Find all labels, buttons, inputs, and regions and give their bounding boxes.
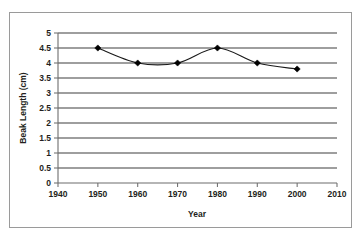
y-tick-label: 0.5 (39, 163, 51, 173)
y-axis-tick-labels: 00.511.522.533.544.55 (39, 28, 51, 188)
y-tick-label: 3 (46, 88, 51, 98)
x-tick-label: 1980 (208, 189, 227, 199)
x-tick-label: 2000 (288, 189, 307, 199)
y-tick-label: 2 (46, 118, 51, 128)
data-point-marker (174, 60, 180, 66)
data-point-marker (135, 60, 141, 66)
data-line-beak-length (98, 48, 297, 69)
y-tick-label: 4.5 (39, 43, 51, 53)
x-tick-label: 1940 (49, 189, 68, 199)
y-tick-label: 2.5 (39, 103, 51, 113)
y-axis-ticks (54, 33, 58, 183)
gridlines (58, 33, 337, 168)
y-tick-label: 1.5 (39, 133, 51, 143)
x-tick-label: 1970 (168, 189, 187, 199)
data-point-marker (294, 66, 300, 72)
y-tick-label: 4 (46, 58, 51, 68)
y-axis-title: Beak Length (cm) (18, 72, 28, 143)
y-tick-label: 3.5 (39, 73, 51, 83)
data-point-marker (254, 60, 260, 66)
x-axis-title: Year (188, 209, 207, 219)
x-tick-label: 1960 (128, 189, 147, 199)
y-tick-label: 1 (46, 148, 51, 158)
chart-figure: 00.511.522.533.544.55 194019501960197019… (0, 0, 361, 240)
x-tick-label: 1950 (88, 189, 107, 199)
x-axis-ticks (58, 183, 337, 187)
x-axis-tick-labels: 19401950196019701980199020002010 (49, 189, 347, 199)
data-point-marker (214, 45, 220, 51)
line-chart-plot: 00.511.522.533.544.55 194019501960197019… (0, 0, 361, 240)
x-tick-label: 1990 (248, 189, 267, 199)
x-tick-label: 2010 (328, 189, 347, 199)
y-tick-label: 5 (46, 28, 51, 38)
y-tick-label: 0 (46, 178, 51, 188)
data-point-marker (95, 45, 101, 51)
data-markers (95, 45, 300, 72)
